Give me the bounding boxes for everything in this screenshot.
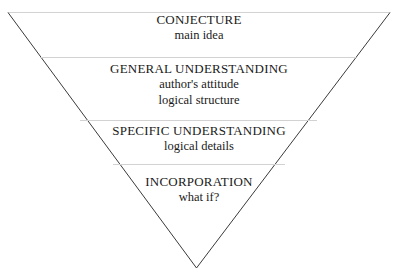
band-line-incorporation-1: what if?	[0, 191, 398, 204]
pyramid-band-conjecture: CONJECTURE main idea	[0, 13, 398, 42]
pyramid-band-specific-understanding: SPECIFIC UNDERSTANDING logical details	[0, 124, 398, 153]
inverted-pyramid-diagram: CONJECTURE main idea GENERAL UNDERSTANDI…	[0, 0, 398, 279]
pyramid-band-general-understanding: GENERAL UNDERSTANDING author's attitude …	[0, 62, 398, 106]
band-title-specific-understanding: SPECIFIC UNDERSTANDING	[0, 124, 398, 137]
band-title-general-understanding: GENERAL UNDERSTANDING	[0, 62, 398, 75]
band-line-conjecture-1: main idea	[0, 29, 398, 42]
band-line-specific-1: logical details	[0, 140, 398, 153]
pyramid-band-incorporation: INCORPORATION what if?	[0, 175, 398, 204]
band-line-general-2: logical structure	[0, 94, 398, 107]
band-title-conjecture: CONJECTURE	[0, 13, 398, 26]
band-title-incorporation: INCORPORATION	[0, 175, 398, 188]
band-line-general-1: author's attitude	[0, 78, 398, 91]
